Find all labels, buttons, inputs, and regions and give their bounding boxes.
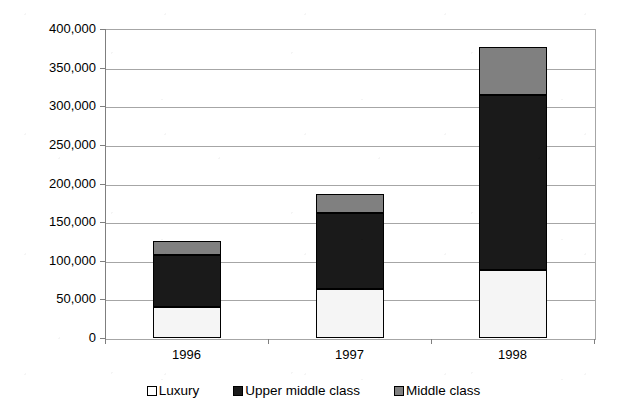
legend-label: Upper middle class (245, 383, 360, 399)
y-axis-line (105, 29, 106, 339)
x-axis-tick (594, 339, 595, 344)
y-axis-tick (100, 261, 105, 262)
y-axis-tick-label: 100,000 (0, 254, 96, 267)
bar-group-1998[interactable] (479, 29, 547, 338)
legend-label: Luxury (159, 383, 200, 399)
y-axis-tick-label: 50,000 (0, 292, 96, 305)
x-axis-tick (268, 339, 269, 344)
y-axis-tick (100, 299, 105, 300)
bar-group-1996[interactable] (153, 29, 221, 338)
y-axis-tick (100, 184, 105, 185)
legend-swatch-luxury (147, 386, 157, 396)
y-axis-tick-label: 350,000 (0, 61, 96, 74)
y-axis-tick (100, 106, 105, 107)
bar-segment-luxury-1997[interactable] (316, 289, 384, 338)
bar-segment-middle-class-1996[interactable] (153, 241, 221, 255)
bar-segment-upper-middle-class-1996[interactable] (153, 255, 221, 307)
chart-container: 050,000100,000150,000200,000250,000300,0… (0, 0, 627, 418)
bar-segment-upper-middle-class-1998[interactable] (479, 95, 547, 270)
chart-legend: LuxuryUpper middle classMiddle class (0, 383, 627, 399)
y-axis-tick-label: 300,000 (0, 99, 96, 112)
bar-segment-luxury-1998[interactable] (479, 270, 547, 338)
x-axis-tick (431, 339, 432, 344)
legend-swatch-middle-class (394, 386, 404, 396)
y-axis-tick-label: 400,000 (0, 22, 96, 35)
y-axis-tick (100, 222, 105, 223)
y-axis-tick-label: 150,000 (0, 215, 96, 228)
y-axis-tick-label: 200,000 (0, 177, 96, 190)
bar-segment-middle-class-1998[interactable] (479, 47, 547, 96)
x-axis-tick (105, 339, 106, 344)
x-axis-label-1998: 1998 (431, 347, 594, 362)
y-axis-tick-label: 0 (0, 331, 96, 344)
legend-label: Middle class (406, 383, 480, 399)
x-axis-label-1996: 1996 (105, 347, 268, 362)
y-axis-tick (100, 29, 105, 30)
legend-swatch-upper-middle-class (233, 386, 243, 396)
legend-item-luxury[interactable]: Luxury (147, 383, 200, 399)
bar-group-1997[interactable] (316, 29, 384, 338)
legend-item-middle-class[interactable]: Middle class (394, 383, 480, 399)
bar-segment-luxury-1996[interactable] (153, 307, 221, 338)
x-axis-label-1997: 1997 (268, 347, 431, 362)
bar-segment-middle-class-1997[interactable] (316, 194, 384, 213)
y-axis-tick (100, 145, 105, 146)
bar-segment-upper-middle-class-1997[interactable] (316, 213, 384, 289)
legend-item-upper-middle-class[interactable]: Upper middle class (233, 383, 360, 399)
y-axis-tick-label: 250,000 (0, 138, 96, 151)
y-axis-tick (100, 68, 105, 69)
